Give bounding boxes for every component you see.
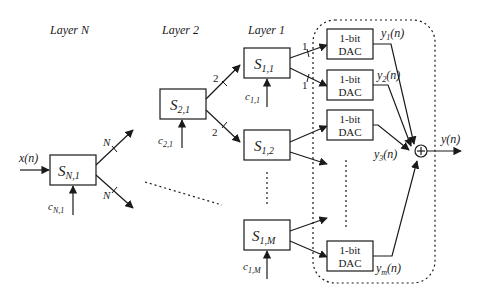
control-label-11: c1,1 — [245, 90, 260, 105]
dac-1: 1-bit DAC — [327, 29, 373, 59]
s1m-to-dacm — [290, 241, 327, 257]
s12-to-dac3 — [290, 126, 327, 142]
layer-2-heading: Layer 2 — [161, 23, 199, 37]
block-s-11: S1,1 — [244, 48, 290, 78]
layer-skip-dots — [145, 182, 222, 205]
dac2-output-label: y2(n) — [376, 68, 400, 84]
layer-n-heading: Layer N — [49, 23, 90, 37]
svg-text:DAC: DAC — [338, 257, 361, 269]
block-s-12: S1,2 — [244, 130, 290, 160]
control-label-1m: c1,M — [243, 260, 262, 275]
dac-3: 1-bit DAC — [327, 110, 373, 140]
summing-junction — [415, 145, 427, 157]
dac-m: 1-bit DAC — [327, 241, 373, 271]
branch-2-top-label: 2 — [213, 72, 219, 84]
dac1-output-label: y1(n) — [380, 26, 404, 42]
block-s-n1: SN,1 — [50, 155, 96, 185]
branch-1-bottom-label: 1 — [302, 79, 308, 91]
svg-text:1-bit: 1-bit — [340, 73, 361, 85]
dacm-output-label: ym(n) — [375, 261, 401, 277]
dacm-output-line — [373, 161, 417, 256]
block-s-21: S2,1 — [160, 89, 206, 119]
svg-text:1-bit: 1-bit — [340, 32, 361, 44]
block-s-1m: S1,M — [244, 220, 290, 250]
input-label: x(n) — [18, 151, 38, 165]
dac3-output-label: y3(n) — [373, 147, 397, 163]
control-label-n1: cN,1 — [48, 200, 64, 215]
svg-text:1-bit: 1-bit — [340, 113, 361, 125]
branch-1-top-label: 1 — [302, 40, 308, 52]
branch-n-bottom-label: N — [102, 189, 111, 201]
svg-text:DAC: DAC — [338, 86, 361, 98]
branch-n-top — [96, 130, 133, 165]
s1m-upper-out — [290, 218, 327, 231]
dac-2: 1-bit DAC — [327, 70, 373, 100]
control-label-21: c2,1 — [158, 134, 173, 149]
svg-text:DAC: DAC — [338, 126, 361, 138]
branch-2-bottom-label: 2 — [212, 126, 218, 138]
branch-n-bottom — [96, 175, 133, 208]
output-label: y(n) — [440, 132, 460, 146]
s12-lower-out — [290, 152, 327, 164]
svg-text:1-bit: 1-bit — [340, 244, 361, 256]
svg-text:DAC: DAC — [338, 45, 361, 57]
layer-1-heading: Layer 1 — [247, 23, 285, 37]
dac1-output-line — [373, 44, 414, 144]
branch-n-top-label: N — [102, 136, 111, 148]
multilayer-dac-diagram: Layer N Layer 2 Layer 1 SN,1 x(n) cN,1 N… — [0, 0, 481, 295]
